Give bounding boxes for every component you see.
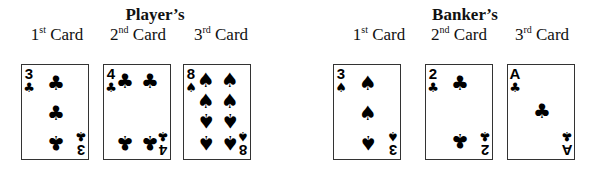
club-icon: ♣ [115, 133, 135, 153]
spade-icon: ♠ [335, 81, 347, 94]
card-corner-top: 3♠ [335, 67, 347, 94]
card-corner-bottom: A♣ [561, 130, 573, 157]
banker-card-3: A♣ ♣ A♣ [507, 64, 575, 160]
spade-icon: ♠ [358, 133, 378, 153]
club-icon: ♣ [46, 133, 66, 153]
club-icon: ♣ [450, 73, 470, 93]
spade-icon: ♠ [196, 133, 216, 153]
player-card-2: 4♣ ♣ ♣ ♣ ♣ 4♣ [103, 64, 171, 160]
spade-icon: ♠ [196, 91, 216, 111]
spade-icon: ♠ [220, 70, 240, 90]
banker-card-1-label: 1st Card [334, 25, 424, 45]
club-icon: ♣ [46, 103, 66, 123]
club-icon: ♣ [479, 130, 491, 143]
card-corner-bottom: 4♣ [157, 130, 169, 157]
player-card-3-label: 3rd Card [176, 25, 266, 45]
player-card-3: 8♠ ♠ ♠ ♠ ♠ ♠ ♠ ♠ ♠ 8♠ [183, 64, 251, 160]
spade-icon: ♠ [237, 130, 249, 143]
banker-card-2-label: 2nd Card [414, 25, 504, 45]
club-icon: ♣ [75, 130, 87, 143]
spade-icon: ♠ [220, 111, 240, 131]
spade-icon: ♠ [220, 91, 240, 111]
card-corner-top: 2♣ [427, 67, 439, 94]
banker-card-3-label: 3rd Card [497, 25, 587, 45]
club-icon: ♣ [115, 71, 135, 91]
banker-card-2: 2♣ ♣ ♣ 2♣ [425, 64, 493, 160]
card-corner-bottom: 3♠ [387, 130, 399, 157]
spade-icon: ♠ [387, 130, 399, 143]
player-hand-title: Player’s [100, 5, 210, 25]
spade-icon: ♠ [358, 103, 378, 123]
club-icon: ♣ [427, 81, 439, 94]
card-corner-top: 3♣ [23, 67, 35, 94]
club-icon: ♣ [23, 81, 35, 94]
player-card-2-label: 2nd Card [93, 25, 183, 45]
club-icon: ♣ [450, 131, 470, 151]
spade-icon: ♠ [358, 73, 378, 93]
player-card-1: 3♣ ♣ ♣ ♣ 3♣ [21, 64, 89, 160]
club-icon: ♣ [561, 130, 573, 143]
card-corner-bottom: 8♠ [237, 130, 249, 157]
spade-icon: ♠ [196, 70, 216, 90]
card-corner-top: A♣ [509, 67, 521, 94]
banker-hand-title: Banker’s [410, 5, 520, 25]
club-icon: ♣ [157, 130, 169, 143]
player-card-1-label: 1st Card [12, 25, 102, 45]
card-corner-bottom: 3♣ [75, 130, 87, 157]
club-icon: ♣ [140, 71, 160, 91]
club-icon: ♣ [46, 73, 66, 93]
spade-icon: ♠ [196, 111, 216, 131]
card-corner-bottom: 2♣ [479, 130, 491, 157]
club-icon: ♣ [532, 101, 552, 121]
banker-card-1: 3♠ ♠ ♠ ♠ 3♠ [333, 64, 401, 160]
club-icon: ♣ [509, 81, 521, 94]
